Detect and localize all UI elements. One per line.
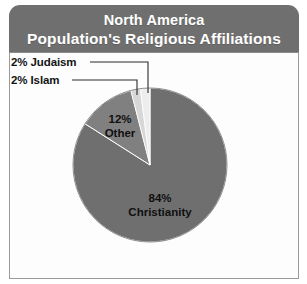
pie-label-judaism: 2% Judaism: [11, 56, 76, 68]
pie-label-other: 12% Other: [94, 113, 146, 140]
chart-figure: North America Population's Religious Aff…: [0, 0, 307, 284]
pie-label-islam: 2% Islam: [11, 74, 59, 86]
chart-title-line-1: North America: [104, 12, 205, 29]
pie-label-other-percent: 12%: [94, 113, 146, 127]
chart-plot-panel: [9, 52, 299, 279]
pie-label-christianity-name: Christianity: [104, 206, 216, 220]
pie-label-christianity-percent: 84%: [104, 192, 216, 206]
chart-title-band: North America Population's Religious Aff…: [9, 5, 299, 52]
pie-label-christianity: 84% Christianity: [104, 192, 216, 219]
chart-title-line-2: Population's Religious Affiliations: [27, 29, 281, 48]
pie-label-other-name: Other: [94, 127, 146, 141]
